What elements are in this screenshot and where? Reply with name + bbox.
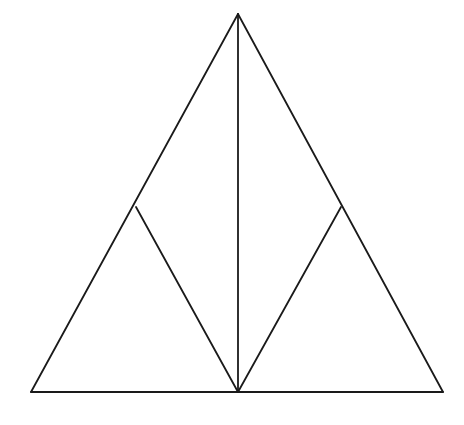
figure-background (0, 0, 464, 425)
triangle-figure (0, 0, 464, 425)
